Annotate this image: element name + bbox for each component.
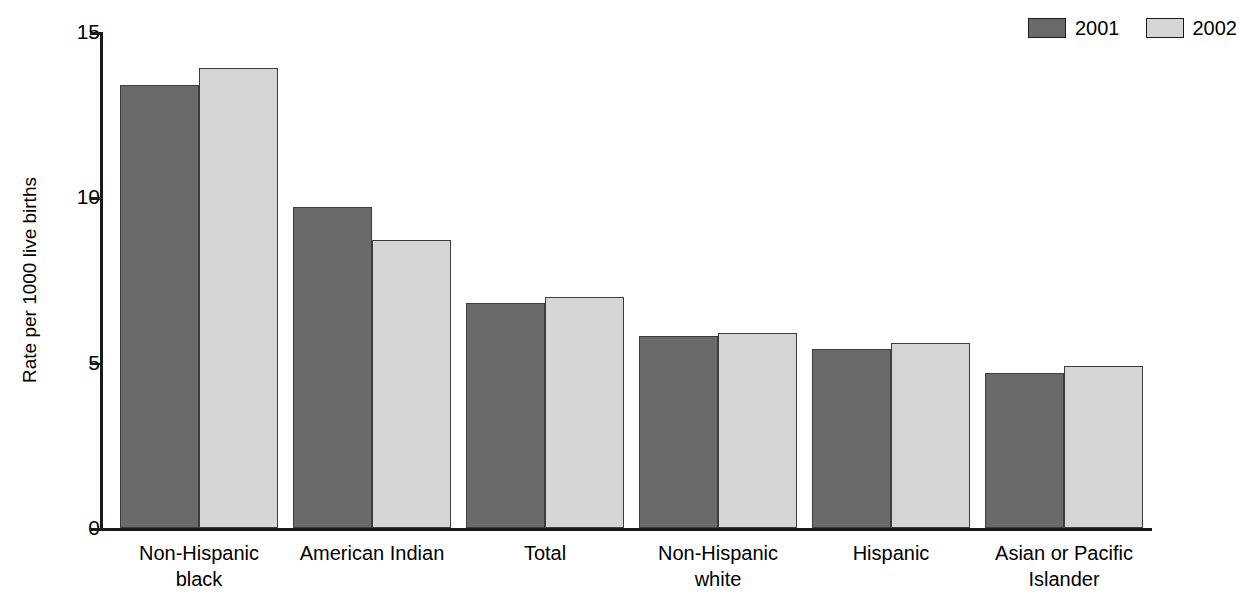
legend-entry-2002: 2002 (1146, 18, 1238, 38)
bar-2002-group-5 (891, 343, 970, 528)
y-tick-label: 5 (16, 352, 100, 373)
bar-2002-group-3 (545, 297, 624, 528)
y-tick-label: 0 (16, 517, 100, 538)
y-tick-mark (90, 528, 100, 531)
plot-area (102, 32, 1152, 528)
bar-2002-group-6 (1064, 366, 1143, 528)
bar-2002-group-1 (199, 68, 278, 528)
bar-2001-group-6 (985, 373, 1064, 528)
y-axis-title: Rate per 1000 live births (16, 32, 44, 528)
y-tick-mark (90, 32, 100, 35)
legend-label-2002: 2002 (1193, 18, 1238, 38)
bar-2002-group-4 (718, 333, 797, 528)
bar-2001-group-4 (639, 336, 718, 528)
y-tick-label: 10 (16, 186, 100, 207)
x-axis-label-6: Asian or Pacific Islander (945, 540, 1183, 592)
y-tick-label: 15 (16, 21, 100, 42)
bar-2001-group-1 (120, 85, 199, 528)
bar-2002-group-2 (372, 240, 451, 528)
bar-chart: 2001 2002 Rate per 1000 live births 0510… (0, 0, 1242, 596)
bar-2001-group-2 (293, 207, 372, 528)
bar-2001-group-5 (812, 349, 891, 528)
x-axis-line (100, 528, 1152, 531)
y-tick-mark (90, 363, 100, 366)
bar-2001-group-3 (466, 303, 545, 528)
y-tick-mark (90, 197, 100, 200)
